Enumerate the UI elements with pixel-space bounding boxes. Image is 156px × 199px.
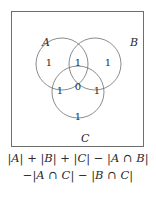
formula-line-1: |A| + |B| + |C| − |A ∩ B| — [0, 150, 156, 167]
set-label-b: B — [130, 37, 138, 48]
region-count-c-only: 1 — [71, 112, 85, 122]
region-count-b-only: 1 — [101, 58, 115, 68]
region-count-ab: 1 — [71, 58, 85, 68]
set-label-a: A — [42, 37, 50, 48]
venn-circles-svg — [12, 12, 145, 148]
region-count-bc: 1 — [90, 86, 104, 96]
venn-outer-box: A B C 1 1 1 1 0 1 1 — [11, 11, 144, 147]
region-count-a-only: 1 — [42, 58, 56, 68]
formula-line-2: −|A ∩ C| − |B ∩ C| — [0, 167, 156, 184]
inclusion-exclusion-formula: |A| + |B| + |C| − |A ∩ B| −|A ∩ C| − |B … — [0, 150, 156, 183]
venn-diagram-figure: A B C 1 1 1 1 0 1 1 |A| + |B| + |C| − |A… — [0, 0, 156, 199]
region-count-abc: 0 — [71, 82, 85, 92]
set-label-c: C — [81, 133, 89, 144]
region-count-ac: 1 — [53, 86, 67, 96]
